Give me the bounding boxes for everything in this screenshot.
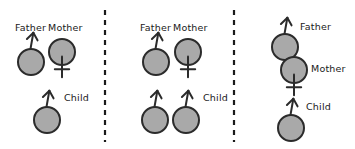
male-arrow-head-right <box>293 99 297 107</box>
child-symbol <box>278 99 304 141</box>
mother-symbol <box>49 39 75 77</box>
male-symbol-icon <box>18 49 44 75</box>
mother-label: Mother <box>48 22 83 33</box>
child-label: Child <box>64 92 89 103</box>
panel-2: FatherMotherChild <box>140 22 228 133</box>
father-label: Father <box>15 22 46 33</box>
mother-label: Mother <box>173 22 208 33</box>
male-arrow-head-right <box>157 91 161 99</box>
family-symbol-diagram: FatherMotherChildFatherMotherChildFather… <box>0 0 355 149</box>
child-symbol-1 <box>142 91 168 133</box>
male-arrow-head-right <box>49 91 53 99</box>
child-label: Child <box>203 92 228 103</box>
father-label: Father <box>140 22 171 33</box>
child-symbol-2 <box>173 91 199 133</box>
male-arrow-head-right <box>287 18 291 26</box>
male-arrow-head-right <box>188 91 192 99</box>
male-symbol-icon <box>143 49 169 75</box>
male-arrow-head-right <box>158 33 162 41</box>
mother-symbol <box>175 39 201 77</box>
male-symbol-icon <box>34 107 60 133</box>
male-arrow-head-right <box>33 33 37 41</box>
mother-label: Mother <box>311 63 346 74</box>
father-label: Father <box>300 21 331 32</box>
panel-1: FatherMotherChild <box>15 22 89 133</box>
mother-symbol <box>281 57 307 95</box>
father-symbol <box>272 18 298 60</box>
male-symbol-icon <box>142 107 168 133</box>
father-symbol <box>18 33 44 75</box>
child-label: Child <box>306 101 331 112</box>
male-symbol-icon <box>278 115 304 141</box>
child-symbol <box>34 91 60 133</box>
diagram-canvas: FatherMotherChildFatherMotherChildFather… <box>0 0 355 149</box>
panel-3: FatherMotherChild <box>272 18 346 141</box>
male-symbol-icon <box>173 107 199 133</box>
father-symbol <box>143 33 169 75</box>
